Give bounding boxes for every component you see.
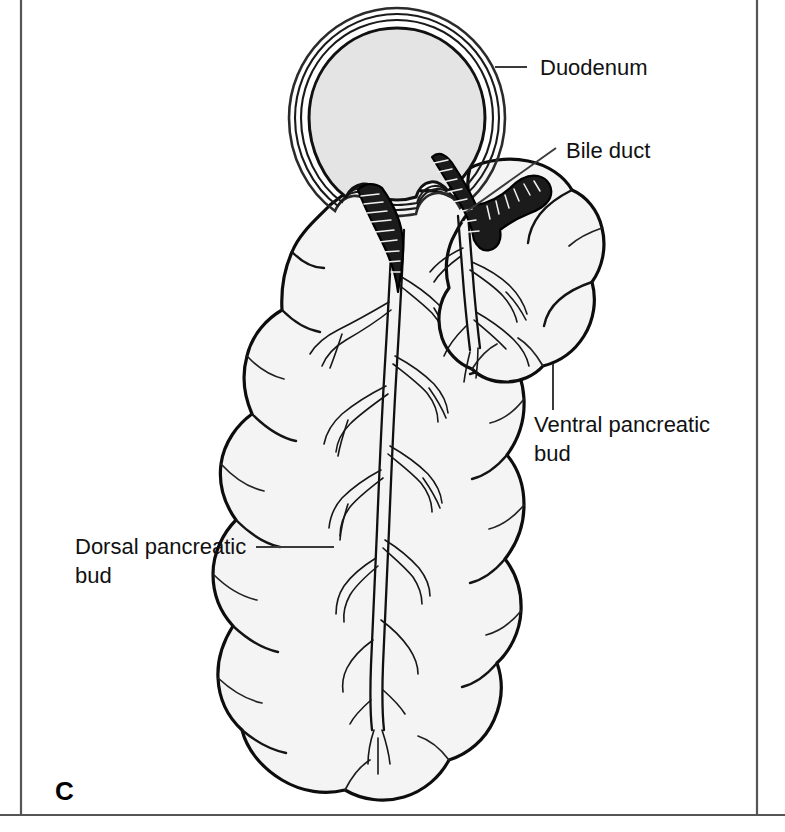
label-bile-duct: Bile duct <box>566 138 650 163</box>
label-ventral-pancreatic-bud-line1: Ventral pancreatic <box>534 412 710 437</box>
label-duodenum: Duodenum <box>540 55 648 80</box>
anatomical-diagram-canvas: Duodenum Bile duct Ventral pancreatic bu… <box>0 0 785 832</box>
label-dorsal-pancreatic-bud-line1: Dorsal pancreatic <box>75 534 246 559</box>
label-ventral-pancreatic-bud-line2: bud <box>534 441 571 466</box>
figure-panel-c: Duodenum Bile duct Ventral pancreatic bu… <box>0 0 785 832</box>
panel-letter: C <box>55 776 74 806</box>
label-dorsal-pancreatic-bud-line2: bud <box>75 563 112 588</box>
